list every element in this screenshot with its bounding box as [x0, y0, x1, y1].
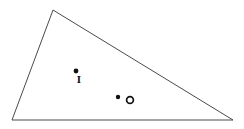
triangle-diagram-svg: I	[0, 0, 244, 129]
point-i-label: I	[77, 73, 81, 85]
geometry-figure: I	[0, 0, 244, 129]
point-o-dot-icon	[116, 95, 120, 99]
